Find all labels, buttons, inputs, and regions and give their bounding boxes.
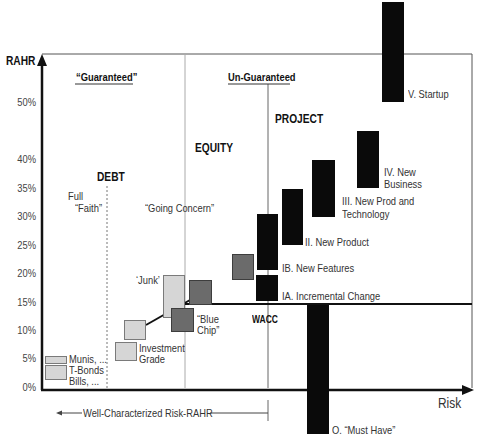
ia-label: IA. Incremental Change (282, 290, 380, 303)
unguaranteed-heading: Un-Guaranteed (228, 71, 296, 84)
project-heading: PROJECT (275, 113, 323, 126)
iii-label-line2: Technology (342, 208, 389, 221)
bills-label: Bills, ... (69, 375, 99, 388)
left-arrow-icon (56, 411, 62, 416)
ii-new-product-bar (282, 189, 303, 245)
grade-label: Grade (139, 353, 165, 366)
investment-grade-upper-range (124, 320, 146, 340)
ib-label: IB. New Features (282, 262, 354, 275)
munis-range (45, 356, 67, 364)
x-axis-label: Risk (438, 397, 461, 410)
v-label: V. Startup (408, 88, 449, 101)
wacc-label: WACC (252, 313, 278, 326)
o-must-have-bar (307, 305, 329, 434)
tbonds-range (45, 365, 67, 380)
tick-40: 40% (11, 153, 37, 165)
guaranteed-heading: “Guaranteed” (76, 71, 137, 84)
blue-chip-lower-range (171, 308, 194, 332)
junk-label: ‘Junk’ (136, 274, 160, 287)
tick-25: 25% (11, 239, 37, 251)
iv-new-business-bar (357, 131, 379, 188)
debt-heading: DEBT (97, 171, 125, 184)
faith-label: “Faith” (75, 202, 102, 215)
tick-15: 15% (11, 296, 37, 308)
investment-grade-lower-range (115, 342, 137, 361)
y-axis-arrow-icon (37, 54, 47, 66)
well-characterized-label: Well-Characterized Risk-RAHR (83, 407, 213, 420)
tick-30: 30% (11, 210, 37, 222)
ii-label: II. New Product (305, 236, 369, 249)
iii-new-prod-tech-bar (312, 160, 335, 217)
tick-10: 10% (11, 324, 37, 336)
tick-35: 35% (11, 182, 37, 194)
going-concern-label: “Going Concern” (145, 202, 214, 215)
chip-label: Chip” (197, 324, 219, 337)
y-axis-label: RAHR (6, 55, 35, 68)
must-have-label: O. “Must Have” (332, 424, 395, 437)
iii-label-line1: III. New Prod and (342, 195, 414, 208)
ib-new-features-bar (257, 214, 278, 270)
new-features-equity-range (232, 254, 254, 280)
v-startup-bar (382, 2, 404, 102)
iv-label-line2: Business (384, 178, 422, 191)
tick-5: 5% (11, 352, 37, 364)
blue-chip-upper-range (189, 280, 212, 305)
tick-50: 50% (11, 96, 37, 108)
tick-20: 20% (11, 267, 37, 279)
tick-0: 0% (11, 381, 37, 393)
ia-incremental-change-bar (256, 275, 278, 301)
equity-heading: EQUITY (195, 142, 233, 155)
